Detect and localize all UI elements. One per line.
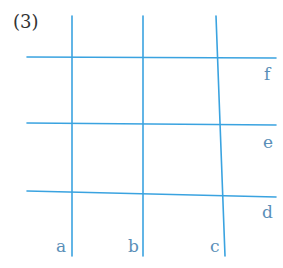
line-d — [27, 191, 276, 197]
line-f — [27, 57, 276, 58]
line-c — [216, 16, 225, 256]
parallel-lines-figure: (3) f e d a b c — [0, 0, 283, 268]
label-c: c — [210, 238, 220, 255]
label-e: e — [263, 134, 273, 151]
line-e — [27, 123, 276, 125]
label-a: a — [56, 238, 66, 255]
label-d: d — [262, 204, 273, 221]
problem-number: (3) — [13, 13, 39, 31]
label-f: f — [264, 66, 270, 83]
label-b: b — [128, 238, 139, 255]
lines-canvas — [0, 0, 283, 268]
